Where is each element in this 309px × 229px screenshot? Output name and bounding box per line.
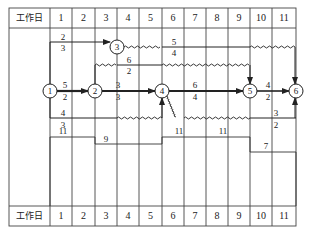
footer-day-8: 8 (206, 206, 228, 226)
activity-1-2-resource: 5 (58, 80, 72, 90)
footer-day-5: 5 (139, 206, 162, 226)
footer-day-11: 11 (272, 206, 296, 226)
activity-3-6-duration: 4 (167, 48, 181, 58)
histogram-value-days-1-2: 11 (56, 126, 70, 136)
activity-5-6-resource: 4 (261, 80, 275, 90)
header-day-3: 3 (95, 8, 117, 28)
header-day-8: 8 (206, 8, 228, 28)
node-label-2: 2 (88, 86, 102, 96)
activity-4-5-duration: 4 (188, 92, 202, 102)
footer-day-4: 4 (117, 206, 139, 226)
histogram-value-days-8-9: 11 (216, 126, 230, 136)
histogram-value-days-10-11: 7 (259, 141, 273, 151)
footer-day-3: 3 (95, 206, 117, 226)
activity-3-6-free-float-1 (124, 46, 160, 48)
node-label-3: 3 (110, 42, 124, 52)
node-label-1: 1 (43, 86, 57, 96)
activity-2-5-resource: 6 (122, 55, 136, 65)
activity-4-6 (166, 96, 176, 117)
footer-day-6: 6 (162, 206, 184, 226)
footer-day-7: 7 (184, 206, 206, 226)
footer-day-9: 9 (228, 206, 250, 226)
footer-day-1: 1 (50, 206, 72, 226)
activity-2-5-duration: 2 (122, 66, 136, 76)
header-day-4: 4 (117, 8, 139, 28)
footer-day-2: 2 (72, 206, 95, 226)
header-day-6: 6 (162, 8, 184, 28)
node-label-4: 4 (155, 86, 169, 96)
histogram-value-days-6-7: 11 (172, 126, 186, 136)
node-label-6: 6 (289, 86, 303, 96)
header-day-2: 2 (72, 8, 95, 28)
activity-4-5-resource: 6 (188, 80, 202, 90)
header-day-9: 9 (228, 8, 250, 28)
header-day-5: 5 (139, 8, 162, 28)
histogram-value-days-3-5: 9 (99, 134, 113, 144)
activity-4-6-duration: 2 (269, 120, 283, 130)
node-label-5: 5 (243, 86, 257, 96)
activity-4-6-resource: 3 (269, 108, 283, 118)
activity-2-4-resource: 3 (111, 80, 125, 90)
activity-1-3-duration: 3 (56, 43, 70, 53)
header-day-7: 7 (184, 8, 206, 28)
header-workday-label: 工作日 (9, 8, 50, 28)
activity-1-4-resource: 4 (56, 108, 70, 118)
header-day-11: 11 (272, 8, 296, 28)
footer-day-10: 10 (250, 206, 272, 226)
activity-5-6-duration: 2 (261, 92, 275, 102)
footer-workday-label: 工作日 (9, 206, 50, 226)
activity-1-3-resource: 2 (56, 32, 70, 42)
header-day-10: 10 (250, 8, 272, 28)
activity-2-4-duration: 3 (111, 92, 125, 102)
activity-1-2-duration: 2 (58, 92, 72, 102)
activity-3-6-resource: 5 (167, 37, 181, 47)
time-scaled-network-diagram (0, 0, 309, 229)
grid-frame (9, 8, 296, 226)
header-day-1: 1 (50, 8, 72, 28)
